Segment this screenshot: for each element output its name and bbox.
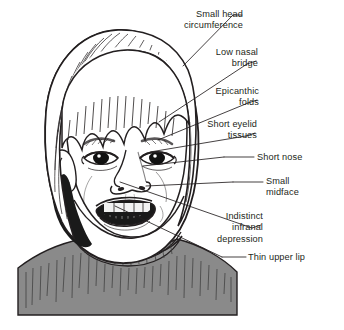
annotation-label-short-nose: Short nose	[257, 152, 302, 163]
annotation-label-small-head-circumference: Small head circumference	[184, 9, 243, 32]
annotation-label-short-eyelid-tissues: Short eyelid tissues	[207, 119, 257, 142]
annotation-label-small-midface: Small midface	[266, 176, 299, 199]
face-illustration	[0, 0, 344, 330]
facial-features-figure: Small head circumferenceLow nasal bridge…	[0, 0, 344, 330]
annotation-label-indistinct-infranal-depression: Indistinct infranal depression	[217, 211, 263, 245]
annotation-label-low-nasal-bridge: Low nasal bridge	[216, 47, 258, 70]
annotation-label-thin-upper-lip: Thin upper lip	[248, 252, 305, 263]
annotation-label-epicanthic-folds: Epicanthic folds	[216, 86, 259, 109]
